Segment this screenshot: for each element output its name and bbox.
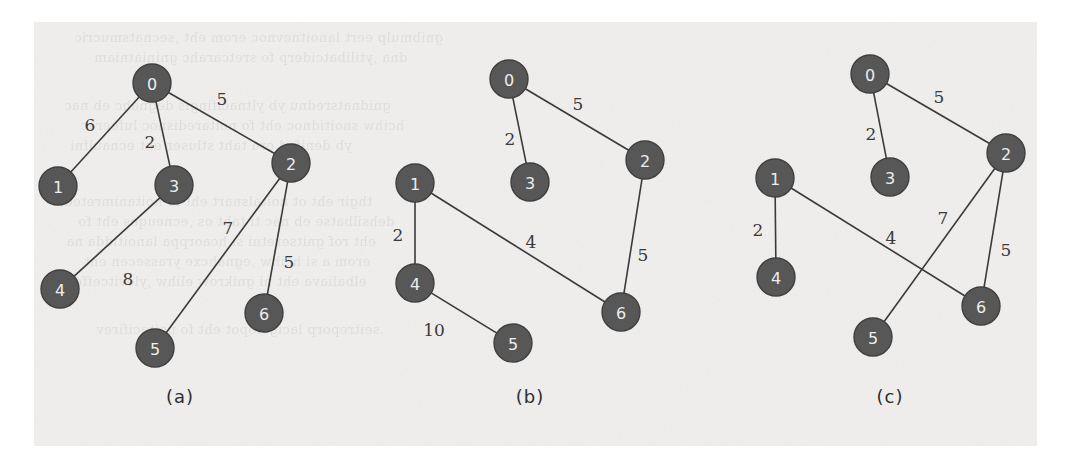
edge-0-3 <box>156 100 171 169</box>
graph-node-6[interactable]: 6 <box>245 294 283 332</box>
node-label-6: 6 <box>616 304 626 323</box>
edge-weight-0-3: 2 <box>505 129 516 149</box>
node-label-5: 5 <box>508 335 518 354</box>
edge-1-6 <box>429 192 606 303</box>
edge-weight-2-6: 5 <box>1001 240 1012 260</box>
node-layer: 0321456 <box>396 60 664 362</box>
node-label-1: 1 <box>53 178 63 197</box>
edge-weight-0-2: 5 <box>573 94 584 114</box>
edge-2-6 <box>984 170 1004 289</box>
graph-node-1[interactable]: 1 <box>396 164 434 202</box>
graph-node-2[interactable]: 2 <box>272 144 310 182</box>
edge-0-1 <box>69 96 140 174</box>
node-label-6: 6 <box>976 298 986 317</box>
edge-weight-0-2: 5 <box>217 89 228 109</box>
graph-node-3[interactable]: 3 <box>511 163 549 201</box>
edge-weight-2-6: 5 <box>638 245 649 265</box>
edge-layer <box>775 83 1003 324</box>
edge-1-4 <box>775 195 776 260</box>
edge-weight-0-3: 2 <box>145 132 156 152</box>
node-label-3: 3 <box>169 177 179 196</box>
graph-node-5[interactable]: 5 <box>136 329 174 367</box>
node-label-4: 4 <box>55 281 65 300</box>
node-label-2: 2 <box>286 155 296 174</box>
panel-caption-2: (c) <box>877 386 904 407</box>
graph-panel-c: 0321456252475(c) <box>753 55 1025 407</box>
edge-weight-1-4: 2 <box>753 220 764 240</box>
edge-weight-2-5: 7 <box>223 218 234 238</box>
edge-weight-0-2: 5 <box>934 87 945 107</box>
edge-weight-1-6: 4 <box>526 232 537 252</box>
node-label-3: 3 <box>525 174 535 193</box>
node-label-2: 2 <box>1001 145 1011 164</box>
graph-node-0[interactable]: 0 <box>851 55 889 93</box>
edge-weight-2-6: 5 <box>284 252 295 272</box>
graph-panel-b: 03214562524105(b) <box>393 60 664 407</box>
node-label-5: 5 <box>868 329 878 348</box>
node-label-6: 6 <box>259 305 269 324</box>
graph-node-6[interactable]: 6 <box>602 293 640 331</box>
edge-weight-2-5: 7 <box>938 208 949 228</box>
graph-node-5[interactable]: 5 <box>494 324 532 362</box>
graph-node-0[interactable]: 0 <box>133 64 171 102</box>
graph-node-2[interactable]: 2 <box>626 141 664 179</box>
node-layer: 0321456 <box>756 55 1025 356</box>
node-label-2: 2 <box>640 152 650 171</box>
graph-node-5[interactable]: 5 <box>854 318 892 356</box>
graph-node-1[interactable]: 1 <box>39 167 77 205</box>
edge-weight-3-4: 8 <box>123 269 134 289</box>
graph-node-4[interactable]: 4 <box>41 270 79 308</box>
graph-figure: 0132456625875(a)03214562524105(b)0321456… <box>0 0 1069 468</box>
node-label-3: 3 <box>885 169 895 188</box>
edge-weight-0-1: 6 <box>85 115 96 135</box>
figure-page: gnibmulp eert lanoitnevnoc erom eht ,sec… <box>0 0 1069 468</box>
graph-node-1[interactable]: 1 <box>756 159 794 197</box>
edge-weight-4-5: 10 <box>423 320 445 340</box>
edge-weight-1-6: 4 <box>886 228 897 248</box>
node-label-5: 5 <box>150 340 160 359</box>
panel-caption-1: (b) <box>516 386 544 407</box>
node-label-1: 1 <box>410 175 420 194</box>
graph-node-2[interactable]: 2 <box>987 134 1025 172</box>
edge-1-6 <box>789 187 966 297</box>
graph-node-4[interactable]: 4 <box>757 258 795 296</box>
node-label-0: 0 <box>147 75 157 94</box>
graph-node-6[interactable]: 6 <box>962 287 1000 325</box>
edge-weight-0-3: 2 <box>866 124 877 144</box>
graph-node-4[interactable]: 4 <box>396 264 434 302</box>
edge-2-6 <box>624 177 643 295</box>
graph-panel-a: 0132456625875(a) <box>39 64 310 407</box>
graph-node-0[interactable]: 0 <box>490 60 528 98</box>
node-label-4: 4 <box>410 275 420 294</box>
node-label-1: 1 <box>770 170 780 189</box>
edge-3-4 <box>73 196 162 277</box>
node-label-0: 0 <box>865 66 875 85</box>
edge-2-6 <box>267 180 288 297</box>
panel-caption-0: (a) <box>166 386 194 407</box>
graph-node-3[interactable]: 3 <box>871 158 909 196</box>
edge-weight-1-4: 2 <box>393 225 404 245</box>
node-label-0: 0 <box>504 71 514 90</box>
node-label-4: 4 <box>771 269 781 288</box>
graph-node-3[interactable]: 3 <box>155 166 193 204</box>
